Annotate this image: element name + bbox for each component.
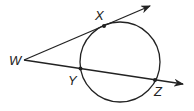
- point-z: [153, 78, 157, 82]
- label-z: Z: [153, 84, 163, 99]
- tangent-secant-diagram: W X Y Z: [0, 0, 194, 111]
- circle: [80, 22, 160, 102]
- point-x: [102, 24, 106, 28]
- tangent-ray-wx: [24, 6, 150, 60]
- point-y: [79, 67, 83, 71]
- label-w: W: [9, 53, 23, 68]
- label-x: X: [94, 8, 105, 23]
- label-y: Y: [68, 73, 78, 88]
